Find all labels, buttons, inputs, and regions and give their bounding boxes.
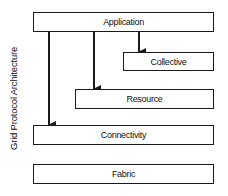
layer-resource-label: Resource: [126, 94, 162, 104]
layer-application-label: Application: [103, 17, 144, 27]
layer-collective: Collective: [123, 52, 214, 71]
layer-fabric: Fabric: [33, 164, 214, 184]
layer-resource: Resource: [75, 89, 214, 109]
layer-application: Application: [33, 12, 214, 32]
layer-connectivity: Connectivity: [33, 125, 214, 145]
grid-protocol-architecture-diagram: Grid Protocol Architecture Application C…: [0, 0, 228, 196]
layer-connectivity-label: Connectivity: [101, 130, 146, 140]
layer-collective-label: Collective: [150, 57, 186, 67]
layer-fabric-label: Fabric: [112, 169, 135, 179]
